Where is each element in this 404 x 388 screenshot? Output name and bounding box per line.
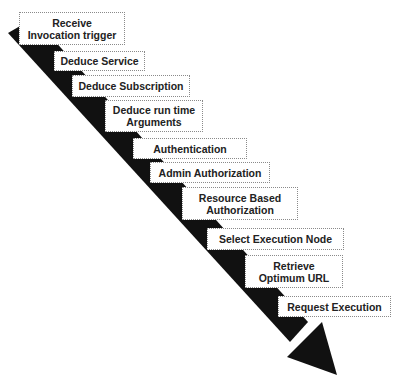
- step-retrieve-optimum-url: Retrieve Optimum URL: [245, 255, 343, 288]
- step-select-execution-node: Select Execution Node: [207, 228, 344, 250]
- step-authentication: Authentication: [133, 138, 247, 159]
- step-request-execution: Request Execution: [278, 296, 391, 317]
- step-resource-based-authorization: Resource Based Authorization: [182, 187, 298, 220]
- step-receive-invocation-trigger: Receive Invocation trigger: [19, 12, 125, 45]
- step-deduce-service: Deduce Service: [54, 51, 145, 71]
- process-flow-diagram: Receive Invocation trigger Deduce Servic…: [0, 0, 404, 388]
- step-deduce-subscription: Deduce Subscription: [72, 75, 190, 97]
- step-admin-authorization: Admin Authorization: [150, 162, 270, 183]
- step-deduce-run-time-arguments: Deduce run time Arguments: [105, 100, 203, 132]
